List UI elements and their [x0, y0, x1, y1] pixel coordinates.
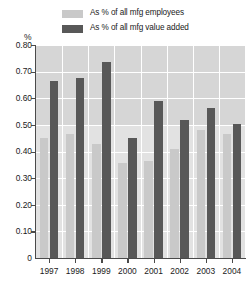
bar: [66, 134, 75, 258]
bar: [154, 101, 163, 258]
x-axis-tick-label: 2001: [144, 267, 163, 275]
bar: [207, 108, 216, 258]
bar: [50, 81, 59, 258]
y-axis-tick-label: 0.20: [16, 201, 32, 209]
bar-chart: As % of all mfg employees As % of all mf…: [0, 0, 252, 292]
y-axis-tick-label: 0.10: [16, 227, 32, 235]
bar: [76, 78, 85, 258]
y-axis-line: [35, 45, 36, 259]
x-axis-line: [35, 258, 246, 259]
bar-group: [167, 45, 193, 258]
bar-group: [62, 45, 88, 258]
y-axis-tick-label: 0.80: [16, 41, 32, 49]
x-axis-tick-mark: [154, 259, 155, 263]
bar: [197, 130, 206, 258]
x-axis-tick-mark: [49, 259, 50, 263]
y-axis-tick-mark: [31, 72, 35, 73]
y-axis-tick-mark: [31, 125, 35, 126]
bar: [223, 134, 232, 258]
x-axis-tick-mark: [206, 259, 207, 263]
y-axis-tick-mark: [31, 98, 35, 99]
x-axis-tick-label: 1998: [66, 267, 85, 275]
y-axis-tick-label: 0.40: [16, 147, 32, 155]
bar-group: [141, 45, 167, 258]
x-axis-tick-label: 2003: [196, 267, 215, 275]
legend-label-value-added: As % of all mfg value added: [90, 24, 189, 32]
bar: [233, 124, 242, 258]
y-axis-tick-label: 0.30: [16, 174, 32, 182]
x-axis-tick-mark: [232, 259, 233, 263]
y-axis-tick-label: 0.50: [16, 121, 32, 129]
bar: [170, 149, 179, 258]
x-axis-tick-label: 2004: [223, 267, 242, 275]
bar-group: [219, 45, 245, 258]
legend-swatch-value-added: [62, 25, 83, 33]
chart-legend: As % of all mfg employees As % of all mf…: [0, 6, 252, 38]
bar: [180, 120, 189, 258]
x-axis-tick-label: 2002: [170, 267, 189, 275]
y-axis-tick-mark: [31, 205, 35, 206]
y-axis-tick-mark: [31, 178, 35, 179]
y-axis-tick-label: 0.60: [16, 94, 32, 102]
x-axis-tick-label: 1997: [40, 267, 59, 275]
bar: [128, 138, 137, 258]
bar: [40, 138, 49, 258]
x-axis-tick-mark: [101, 259, 102, 263]
bar-group: [114, 45, 140, 258]
bar: [144, 161, 153, 258]
plot-area: [36, 45, 245, 258]
y-axis-labels: 0.800.700.600.500.400.300.200.100: [0, 0, 32, 292]
x-axis-tick-mark: [180, 259, 181, 263]
x-axis-tick-label: 1999: [92, 267, 111, 275]
bar-group: [88, 45, 114, 258]
bar-group: [36, 45, 62, 258]
legend-label-employees: As % of all mfg employees: [90, 9, 184, 17]
bar-group: [193, 45, 219, 258]
y-axis-tick-mark: [31, 231, 35, 232]
legend-swatch-employees: [62, 10, 83, 18]
x-axis-tick-mark: [127, 259, 128, 263]
y-axis-tick-label: 0.70: [16, 67, 32, 75]
x-axis-tick-mark: [75, 259, 76, 263]
legend-item-employees: As % of all mfg employees: [62, 7, 184, 20]
bar: [102, 62, 111, 258]
y-axis-tick-mark: [31, 152, 35, 153]
x-axis-tick-label: 2000: [118, 267, 137, 275]
y-axis-tick-mark: [31, 45, 35, 46]
bar: [92, 144, 101, 258]
y-axis-tick-label: 0: [27, 254, 32, 262]
legend-item-value-added: As % of all mfg value added: [62, 22, 189, 35]
bar: [118, 163, 127, 258]
